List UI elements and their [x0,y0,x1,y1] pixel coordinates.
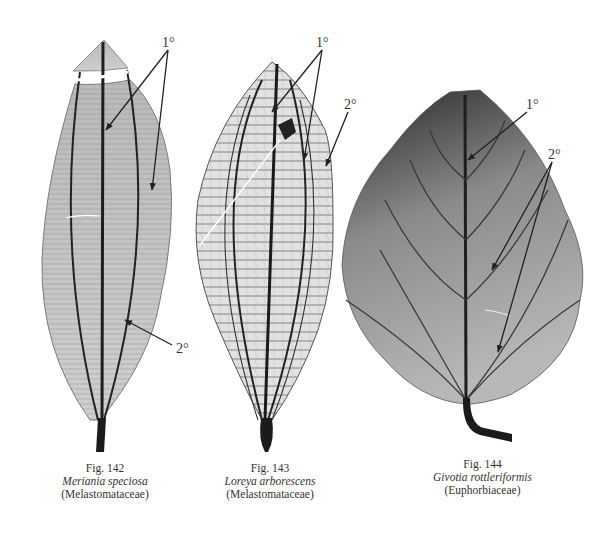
family-name: (Melastomataceae) [210,488,330,501]
label-secondary-vein-fig144: 2° [548,148,561,162]
species-name: Givotia rottleriformis [420,471,545,484]
label-primary-vein-fig144: 1° [526,98,539,112]
species-name: Meriania speciosa [50,475,160,488]
label-secondary-vein-fig142: 2° [176,342,189,356]
figure-number: Fig. 143 [210,462,330,475]
caption-fig-144: Fig. 144 Givotia rottleriformis (Euphorb… [420,458,545,497]
leaf-fig-142 [42,40,172,452]
label-secondary-vein-fig143: 2° [344,98,357,112]
figure-number: Fig. 144 [420,458,545,471]
species-name: Loreya arborescens [210,475,330,488]
label-primary-vein-fig143: 1° [316,36,329,50]
leaf-fig-144 [342,90,583,442]
caption-fig-143: Fig. 143 Loreya arborescens (Melastomata… [210,462,330,501]
leaf-fig-143 [196,62,333,452]
figure-number: Fig. 142 [50,462,160,475]
family-name: (Euphorbiaceae) [420,484,545,497]
caption-fig-142: Fig. 142 Meriania speciosa (Melastomatac… [50,462,160,501]
label-primary-vein-fig142: 1° [162,36,175,50]
family-name: (Melastomataceae) [50,488,160,501]
